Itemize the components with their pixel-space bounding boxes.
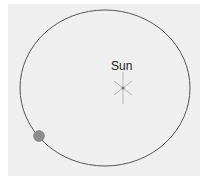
sun-icon — [114, 72, 132, 104]
sun-label: Sun — [111, 59, 132, 73]
planet-icon — [34, 131, 45, 142]
orbit-ellipse — [20, 10, 190, 166]
orbit-diagram — [0, 0, 204, 183]
